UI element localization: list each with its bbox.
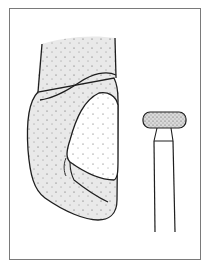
- bur-head: [143, 112, 186, 128]
- tooth-illustration: [0, 0, 209, 267]
- bur-shank-right: [173, 141, 175, 232]
- diamond-bur: [143, 112, 186, 232]
- bur-shank-left: [154, 141, 155, 232]
- bur-neck: [154, 128, 173, 141]
